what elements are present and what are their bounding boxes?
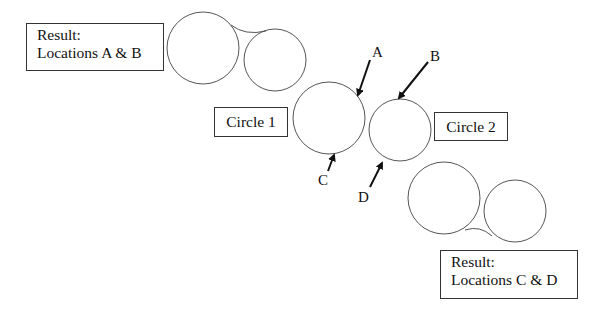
point-label-c: C: [318, 173, 328, 188]
result-bottom-bridge: [465, 228, 492, 236]
result-top-circle-large: [167, 12, 239, 84]
result-bottom-circle-small: [484, 180, 546, 242]
result-pair-top: [167, 12, 306, 91]
result-top-line2: Locations A & B: [37, 44, 163, 62]
result-bottom-circle-large: [408, 162, 480, 234]
circle-2: [369, 99, 431, 161]
circle-2-label: Circle 2: [446, 118, 496, 135]
arrow-b: [399, 62, 428, 98]
circle-1: [293, 82, 365, 154]
point-label-b: B: [430, 49, 440, 64]
arrow-d: [370, 163, 382, 187]
arrow-c: [328, 155, 334, 171]
result-top-box: Result: Locations A & B: [26, 23, 164, 71]
result-top-circle-small: [244, 29, 306, 91]
result-pair-bottom: [408, 162, 546, 242]
result-top-bridge: [231, 25, 266, 33]
result-top-line1: Result:: [37, 26, 163, 44]
result-bottom-line2: Locations C & D: [451, 271, 577, 289]
point-label-d: D: [358, 190, 369, 205]
arrow-a: [358, 60, 370, 95]
result-bottom-line1: Result:: [451, 253, 577, 271]
circle-1-label-box: Circle 1: [214, 107, 288, 137]
circle-1-label: Circle 1: [226, 113, 276, 130]
result-bottom-box: Result: Locations C & D: [440, 250, 578, 299]
circle-2-label-box: Circle 2: [434, 112, 508, 141]
point-label-a: A: [372, 45, 383, 60]
